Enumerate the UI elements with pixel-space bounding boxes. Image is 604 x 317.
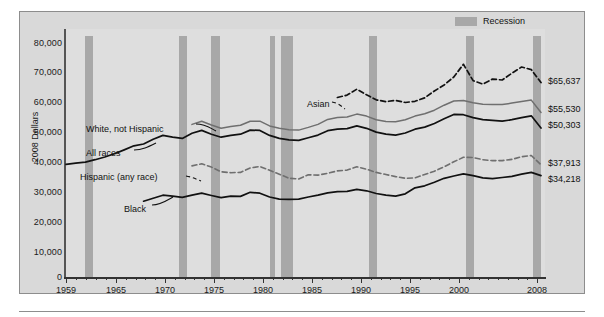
leader-asian bbox=[332, 102, 345, 109]
end-value-hispanic: $37,913 bbox=[548, 158, 581, 168]
callout-leader-lines bbox=[0, 0, 604, 317]
leader-all bbox=[134, 143, 156, 150]
end-value-asian: $65,637 bbox=[548, 76, 581, 86]
chart-figure: Recession 80,000 70,000 60,000 50,000 40… bbox=[0, 0, 604, 317]
end-value-all: $50,303 bbox=[548, 120, 581, 130]
end-value-black: $34,218 bbox=[548, 174, 581, 184]
leader-hispanic bbox=[186, 176, 201, 181]
bottom-divider bbox=[19, 311, 585, 312]
leader-white bbox=[196, 124, 216, 131]
end-value-white: $55,530 bbox=[548, 104, 581, 114]
leader-black bbox=[152, 197, 173, 205]
